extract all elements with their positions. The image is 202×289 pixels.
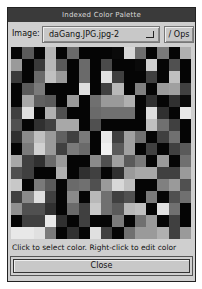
palette-color-cell[interactable] — [112, 179, 123, 191]
palette-color-cell[interactable] — [34, 179, 45, 191]
palette-color-cell[interactable] — [79, 107, 90, 119]
palette-color-cell[interactable] — [34, 215, 45, 227]
palette-color-cell[interactable] — [79, 179, 90, 191]
palette-color-cell[interactable] — [90, 215, 101, 227]
palette-color-cell[interactable] — [124, 155, 135, 167]
palette-color-cell[interactable] — [56, 59, 67, 71]
palette-color-cell[interactable] — [90, 143, 101, 155]
palette-color-cell[interactable] — [34, 83, 45, 95]
palette-color-cell[interactable] — [11, 215, 22, 227]
palette-color-cell[interactable] — [22, 107, 33, 119]
palette-color-cell[interactable] — [157, 95, 168, 107]
palette-color-cell[interactable] — [90, 179, 101, 191]
palette-color-cell[interactable] — [169, 143, 180, 155]
palette-color-cell[interactable] — [11, 107, 22, 119]
palette-color-cell[interactable] — [11, 167, 22, 179]
palette-color-cell[interactable] — [22, 203, 33, 215]
palette-color-cell[interactable] — [146, 83, 157, 95]
palette-color-cell[interactable] — [11, 83, 22, 95]
palette-color-cell[interactable] — [11, 59, 22, 71]
palette-color-cell[interactable] — [79, 47, 90, 59]
palette-color-cell[interactable] — [79, 215, 90, 227]
palette-color-cell[interactable] — [146, 215, 157, 227]
palette-color-cell[interactable] — [169, 59, 180, 71]
palette-color-cell[interactable] — [124, 179, 135, 191]
palette-color-cell[interactable] — [157, 143, 168, 155]
palette-color-cell[interactable] — [22, 131, 33, 143]
palette-color-cell[interactable] — [112, 167, 123, 179]
palette-color-cell[interactable] — [157, 155, 168, 167]
palette-color-cell[interactable] — [79, 59, 90, 71]
palette-color-cell[interactable] — [45, 143, 56, 155]
palette-color-cell[interactable] — [79, 203, 90, 215]
palette-color-cell[interactable] — [67, 47, 78, 59]
palette-color-cell[interactable] — [135, 119, 146, 131]
palette-color-cell[interactable] — [79, 167, 90, 179]
palette-color-cell[interactable] — [11, 227, 22, 239]
palette-color-cell[interactable] — [112, 203, 123, 215]
palette-color-cell[interactable] — [112, 71, 123, 83]
palette-color-cell[interactable] — [180, 143, 191, 155]
palette-color-cell[interactable] — [67, 143, 78, 155]
palette-color-cell[interactable] — [146, 191, 157, 203]
palette-color-cell[interactable] — [146, 47, 157, 59]
palette-color-cell[interactable] — [67, 203, 78, 215]
palette-color-cell[interactable] — [101, 215, 112, 227]
palette-color-cell[interactable] — [34, 131, 45, 143]
palette-color-cell[interactable] — [45, 179, 56, 191]
palette-color-cell[interactable] — [34, 71, 45, 83]
palette-color-cell[interactable] — [124, 215, 135, 227]
palette-color-cell[interactable] — [22, 143, 33, 155]
palette-color-cell[interactable] — [135, 71, 146, 83]
palette-color-cell[interactable] — [11, 47, 22, 59]
palette-color-cell[interactable] — [112, 191, 123, 203]
palette-color-cell[interactable] — [169, 107, 180, 119]
palette-color-cell[interactable] — [90, 227, 101, 239]
palette-color-cell[interactable] — [45, 191, 56, 203]
palette-color-cell[interactable] — [135, 107, 146, 119]
palette-color-cell[interactable] — [11, 179, 22, 191]
palette-color-cell[interactable] — [90, 155, 101, 167]
palette-color-cell[interactable] — [45, 83, 56, 95]
palette-color-cell[interactable] — [112, 143, 123, 155]
palette-color-cell[interactable] — [67, 59, 78, 71]
palette-color-cell[interactable] — [180, 191, 191, 203]
palette-color-cell[interactable] — [135, 59, 146, 71]
palette-color-cell[interactable] — [79, 131, 90, 143]
palette-color-cell[interactable] — [79, 227, 90, 239]
palette-color-cell[interactable] — [146, 131, 157, 143]
palette-color-cell[interactable] — [157, 83, 168, 95]
palette-color-cell[interactable] — [67, 155, 78, 167]
palette-color-cell[interactable] — [180, 59, 191, 71]
palette-color-cell[interactable] — [45, 47, 56, 59]
palette-color-cell[interactable] — [169, 131, 180, 143]
palette-color-cell[interactable] — [112, 83, 123, 95]
palette-color-cell[interactable] — [124, 95, 135, 107]
palette-color-cell[interactable] — [56, 119, 67, 131]
palette-color-cell[interactable] — [169, 95, 180, 107]
palette-color-cell[interactable] — [101, 179, 112, 191]
palette-color-cell[interactable] — [180, 83, 191, 95]
palette-color-cell[interactable] — [45, 215, 56, 227]
palette-color-cell[interactable] — [56, 143, 67, 155]
palette-color-cell[interactable] — [101, 107, 112, 119]
palette-color-cell[interactable] — [34, 203, 45, 215]
palette-color-cell[interactable] — [157, 131, 168, 143]
palette-color-cell[interactable] — [112, 215, 123, 227]
palette-color-cell[interactable] — [45, 131, 56, 143]
palette-color-cell[interactable] — [124, 203, 135, 215]
palette-color-cell[interactable] — [124, 107, 135, 119]
palette-color-cell[interactable] — [101, 155, 112, 167]
palette-color-cell[interactable] — [101, 203, 112, 215]
palette-color-cell[interactable] — [34, 191, 45, 203]
palette-color-cell[interactable] — [90, 71, 101, 83]
palette-color-cell[interactable] — [146, 203, 157, 215]
palette-color-cell[interactable] — [67, 131, 78, 143]
palette-color-cell[interactable] — [112, 47, 123, 59]
palette-color-cell[interactable] — [56, 71, 67, 83]
palette-color-cell[interactable] — [112, 227, 123, 239]
palette-color-cell[interactable] — [34, 95, 45, 107]
palette-color-cell[interactable] — [67, 215, 78, 227]
palette-color-cell[interactable] — [180, 215, 191, 227]
palette-color-cell[interactable] — [90, 47, 101, 59]
